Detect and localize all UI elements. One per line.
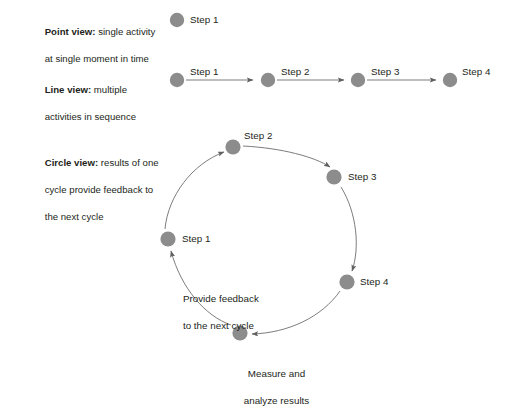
caption-measure-analyze: Measure and analyze results	[219, 354, 323, 410]
caption-provide-feedback-line2: to the next cycle	[183, 320, 254, 331]
node-line-step-3	[351, 73, 365, 87]
line-view-text: multiple	[91, 84, 127, 95]
line-view-label: Line view:	[45, 84, 91, 95]
node-circle-step-2	[225, 139, 240, 154]
node-label-point-step-1: Step 1	[190, 14, 218, 26]
circle-view-text: results of one	[98, 157, 158, 168]
point-view-text: single activity	[95, 26, 155, 37]
node-label-circle-step-4: Step 4	[360, 276, 388, 288]
line-view-text-line2: activities in sequence	[45, 111, 136, 122]
circle-view-label: Circle view:	[45, 157, 98, 168]
caption-provide-feedback: Provide feedback to the next cycle	[172, 279, 259, 345]
node-label-line-step-2: Step 2	[281, 66, 309, 78]
caption-provide-feedback-line1: Provide feedback	[183, 293, 259, 304]
node-line-step-4	[443, 73, 457, 87]
node-line-step-2	[261, 73, 275, 87]
point-view-label: Point view:	[45, 26, 96, 37]
circle-view-text-line3: the next cycle	[45, 211, 104, 222]
node-label-line-step-1: Step 1	[190, 66, 218, 78]
circle-view-text-line2: cycle provide feedback to	[45, 184, 154, 195]
line-view-description: Line view: multiple activities in sequen…	[34, 70, 184, 137]
node-label-circle-step-1: Step 1	[182, 233, 210, 245]
node-circle-step-3	[326, 169, 341, 184]
point-view-description: Point view: single activity at single mo…	[34, 12, 184, 79]
node-label-circle-step-3: Step 3	[348, 171, 376, 183]
node-label-line-step-4: Step 4	[462, 66, 490, 78]
caption-measure-analyze-line2: analyze results	[244, 395, 310, 406]
caption-measure-analyze-line1: Measure and	[248, 368, 305, 379]
node-label-circle-step-2: Step 2	[244, 130, 272, 142]
node-label-line-step-3: Step 3	[371, 66, 399, 78]
node-circle-step-4	[339, 274, 354, 289]
point-view-text-line2: at single moment in time	[45, 53, 149, 64]
circle-view-description: Circle view: results of one cycle provid…	[34, 143, 194, 237]
